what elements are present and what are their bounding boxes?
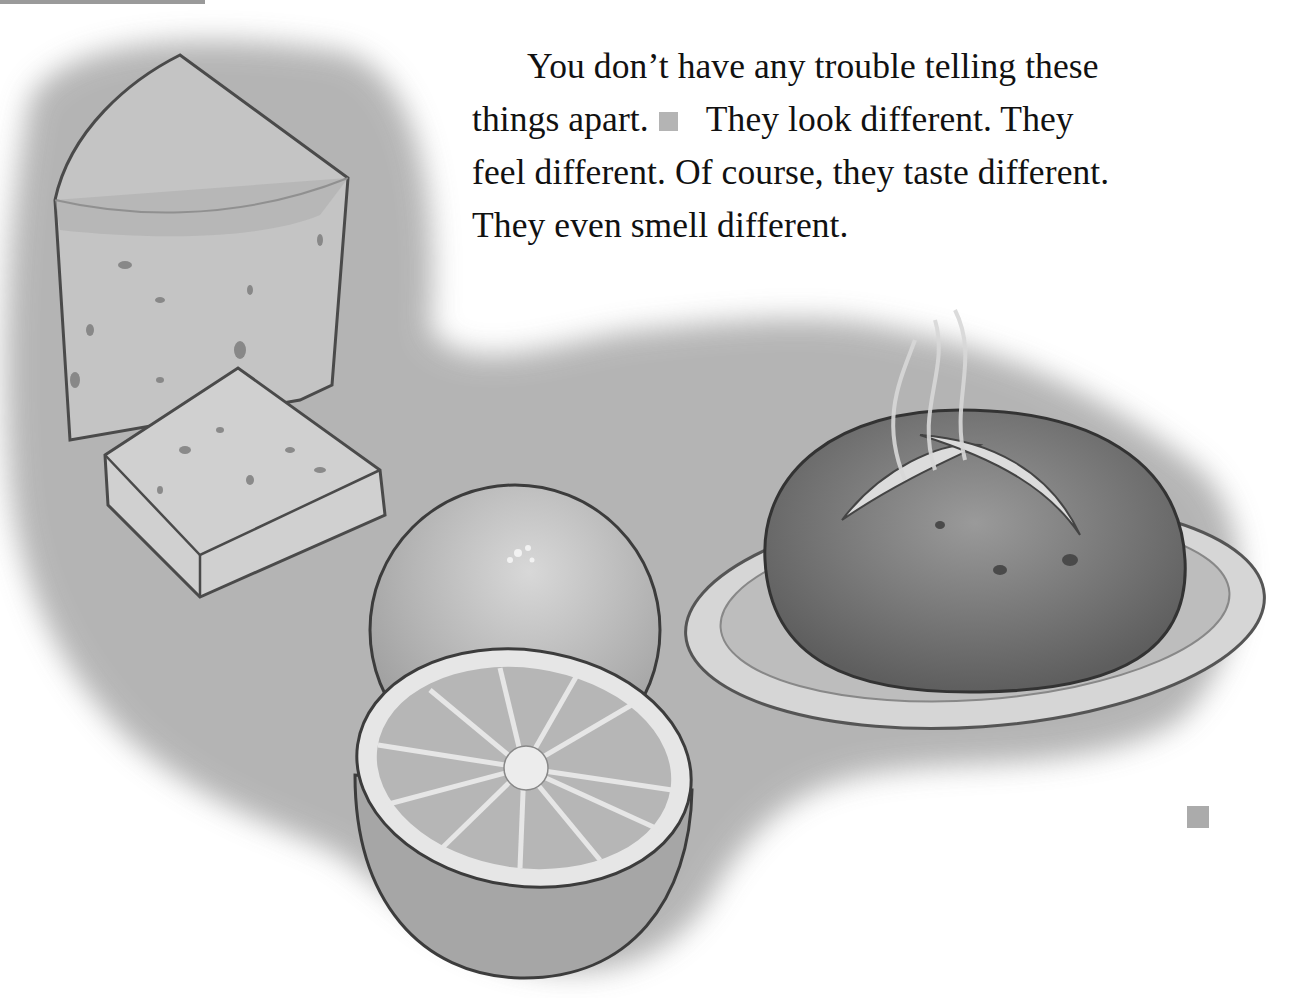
text-segment: things apart. [472, 99, 649, 139]
text-line-1: You don’t have any trouble telling these [472, 40, 1272, 93]
body-paragraph: You don’t have any trouble telling these… [472, 40, 1272, 252]
text-line-4: They even smell different. [472, 199, 1272, 252]
bread-loaf-icon [765, 410, 1185, 692]
text-line-2: things apart.They look different. They [472, 93, 1272, 146]
text-segment: They look different. They [706, 99, 1074, 139]
gray-square-marker [659, 112, 678, 131]
end-square-marker [1187, 806, 1209, 828]
text-line-3: feel different. Of course, they taste di… [472, 146, 1272, 199]
